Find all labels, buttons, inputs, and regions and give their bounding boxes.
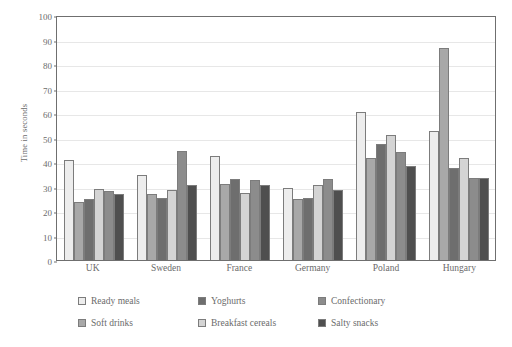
legend-label: Ready meals [91,296,140,306]
legend-label: Salty snacks [331,318,378,328]
bar [366,158,376,260]
y-tick-label: 100 [39,12,53,22]
bar-group [57,17,130,260]
bar [94,189,104,260]
bar-group [203,17,276,260]
bar-group [130,17,203,260]
legend-item[interactable]: Salty snacks [318,318,438,328]
y-tick-label: 10 [43,233,52,243]
bar [333,190,343,260]
legend-swatch [198,319,206,327]
legend-item[interactable]: Breakfast cereals [198,318,318,328]
bar [283,188,293,260]
bar [74,202,84,260]
legend-item[interactable]: Ready meals [78,296,198,306]
legend-label: Yoghurts [211,296,245,306]
bar [114,194,124,260]
bar [64,160,74,260]
legend-swatch [198,297,206,305]
bar [157,198,167,260]
y-tick-label: 60 [43,110,52,120]
bar [104,191,114,260]
legend-item[interactable]: Confectionary [318,296,438,306]
chart-legend: Ready mealsYoghurtsConfectionarySoft dri… [78,290,438,334]
bar-chart: Time in seconds 0102030405060708090100 U… [0,0,512,347]
bar-group [422,17,495,260]
bar [439,48,449,260]
x-tick-label: Germany [276,263,349,273]
legend-label: Soft drinks [91,318,133,328]
bar [167,190,177,260]
y-tick-label: 50 [43,135,52,145]
y-axis-title: Time in seconds [19,63,29,203]
legend-swatch [318,297,326,305]
x-tick-label: Hungary [423,263,496,273]
bar [479,178,489,260]
bar [230,179,240,260]
legend-swatch [78,297,86,305]
x-tick-label: UK [56,263,129,273]
bar [220,184,230,260]
bar [323,179,333,260]
bar [187,185,197,260]
bar [303,198,313,260]
bar [260,185,270,260]
bar-groups [57,17,495,260]
legend-item[interactable]: Yoghurts [198,296,318,306]
bar [469,178,479,260]
x-tick-label: Poland [349,263,422,273]
bar [147,194,157,260]
legend-label: Confectionary [331,296,385,306]
legend-label: Breakfast cereals [211,318,276,328]
bar [240,193,250,260]
bar [84,199,94,260]
y-tick-label: 30 [43,184,52,194]
x-axis-labels: UKSwedenFranceGermanyPolandHungary [56,263,496,273]
y-tick-label: 0 [48,257,53,267]
bar [137,175,147,260]
y-tick-label: 90 [43,37,52,47]
bar [459,158,469,260]
bar [449,168,459,260]
bar [429,131,439,260]
bar [376,144,386,260]
plot-area: 0102030405060708090100 [56,16,496,261]
bar-group [349,17,422,260]
bar [356,112,366,260]
bar [293,199,303,260]
legend-item[interactable]: Soft drinks [78,318,198,328]
legend-swatch [318,319,326,327]
bar [250,180,260,260]
bar [406,166,416,260]
bar [313,185,323,260]
y-tick-label: 80 [43,61,52,71]
bar [177,151,187,260]
bar [386,135,396,260]
x-tick-label: France [203,263,276,273]
bar [210,156,220,260]
y-tick-label: 70 [43,86,52,96]
legend-swatch [78,319,86,327]
y-tick-label: 40 [43,159,52,169]
x-tick-label: Sweden [129,263,202,273]
bar-group [276,17,349,260]
bar [396,152,406,260]
y-tick-label: 20 [43,208,52,218]
